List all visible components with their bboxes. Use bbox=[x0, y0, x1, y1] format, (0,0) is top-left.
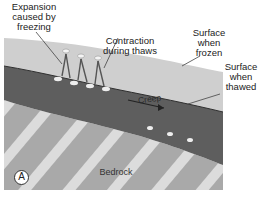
soil-creep-diagram: Expansion caused by freezing Contraction… bbox=[0, 0, 260, 199]
panel-badge: A bbox=[14, 170, 29, 185]
label-surface-thawed: Surface when thawed bbox=[222, 62, 260, 92]
label-surface-frozen: Surface when frozen bbox=[190, 28, 228, 58]
label-contraction: Contraction during thaws bbox=[100, 36, 160, 56]
label-expansion: Expansion caused by freezing bbox=[8, 2, 60, 32]
label-bedrock: Bedrock bbox=[96, 167, 136, 177]
